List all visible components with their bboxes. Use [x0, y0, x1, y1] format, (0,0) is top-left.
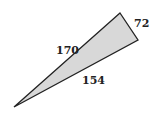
- side-label-72: 72: [134, 17, 149, 30]
- side-label-170: 170: [56, 44, 79, 57]
- side-label-154: 154: [82, 74, 105, 87]
- triangle-diagram: 72 170 154: [0, 0, 155, 115]
- triangle-shape: [14, 13, 138, 107]
